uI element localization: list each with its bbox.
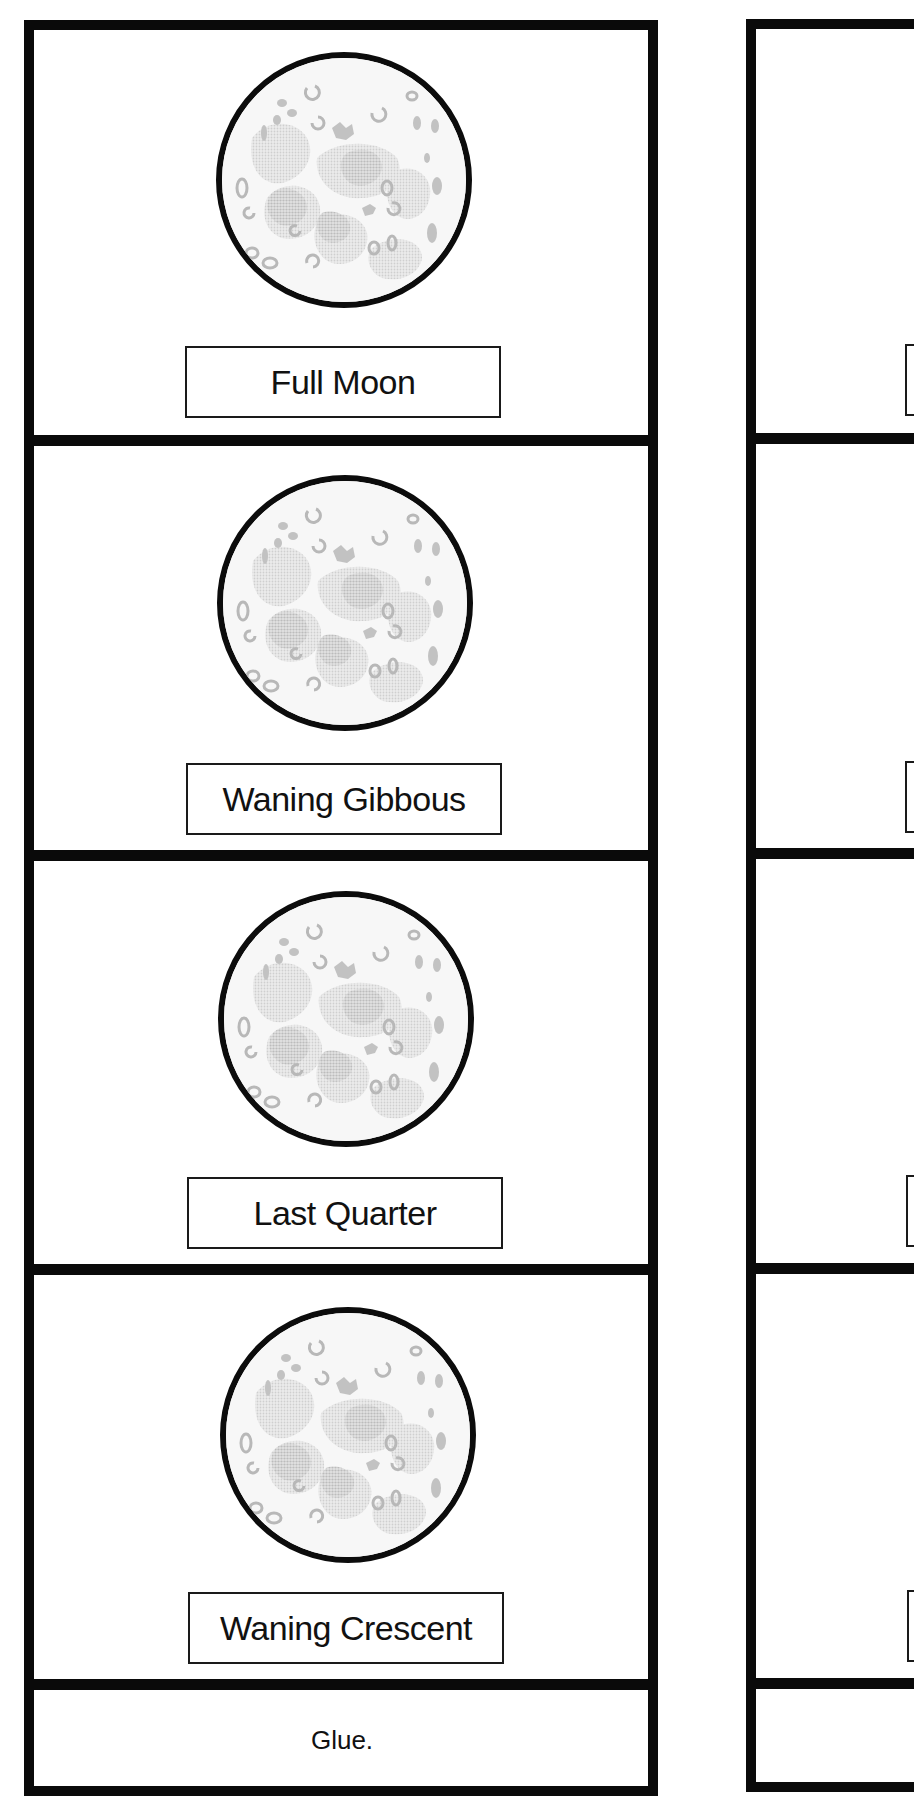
phase-label-box: Last Quarter xyxy=(187,1177,503,1249)
phase-label: Full Moon xyxy=(271,363,416,402)
phase-label-box: Full Moon xyxy=(185,346,501,418)
card-divider xyxy=(26,435,656,446)
phase-label-box: Waning Crescent xyxy=(188,1592,504,1664)
full-moon-icon xyxy=(216,52,472,308)
phase-label: Waning Crescent xyxy=(220,1609,472,1648)
card-divider xyxy=(748,433,914,444)
card-divider xyxy=(748,848,914,859)
right-strip xyxy=(746,19,914,1792)
phase-label-box xyxy=(905,761,914,833)
card-divider xyxy=(748,1678,914,1689)
waning-gibbous-moon-icon xyxy=(217,475,473,731)
waning-crescent-moon-icon xyxy=(220,1307,476,1563)
card-divider xyxy=(26,850,656,861)
phase-label: Waning Gibbous xyxy=(222,780,465,819)
glue-tab-label: Glue. xyxy=(311,1725,373,1756)
phase-label-box xyxy=(906,1175,914,1247)
card-divider xyxy=(26,1679,658,1690)
card-divider xyxy=(748,1263,914,1274)
phase-label-box xyxy=(907,1590,914,1662)
phase-label-box: Waning Gibbous xyxy=(186,763,502,835)
card-divider xyxy=(26,1264,656,1275)
phase-label-box xyxy=(905,344,914,416)
phase-label: Last Quarter xyxy=(254,1194,437,1233)
last-quarter-moon-icon xyxy=(218,891,474,1147)
